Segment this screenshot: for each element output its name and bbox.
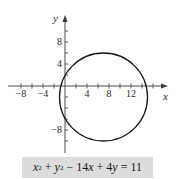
x-tick-label: 8 — [107, 88, 112, 99]
x-tick-label: 12 — [126, 88, 136, 99]
y-tick-label: −8 — [51, 124, 62, 135]
eq-op: = 11 — [118, 160, 142, 175]
y-axis-arrow-icon — [63, 15, 68, 22]
eq-op: − 14 — [63, 160, 88, 175]
eq-op: + 4 — [94, 160, 113, 175]
equation-caption: x2 + y2 − 14x + 4y = 11 — [22, 157, 153, 178]
y-axis-label: y — [52, 12, 58, 24]
circle-graph: −8 −4 4 8 12 8 4 −8 x y — [0, 0, 179, 179]
eq-op: + — [42, 160, 55, 175]
x-tick-label: 4 — [85, 88, 90, 99]
x-axis-label: x — [162, 90, 168, 102]
x-tick-label: −4 — [38, 88, 49, 99]
x-tick-label: −8 — [16, 88, 27, 99]
x-axis-arrow-icon — [161, 84, 168, 89]
y-tick-label: 4 — [57, 58, 62, 69]
y-tick-label: 8 — [57, 36, 62, 47]
